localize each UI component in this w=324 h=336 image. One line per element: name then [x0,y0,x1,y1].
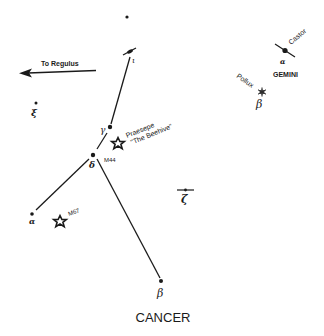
star-zeta: ζ [177,189,194,206]
open-star-icon [112,138,125,149]
star-beta-label: β [156,287,163,300]
constellation-title: CANCER [136,310,191,325]
cluster-m67: M67 [54,207,81,227]
cluster-m44: M44 Praesepe "The Beehive" [104,115,174,163]
star-beta: β [156,279,163,300]
castor-symbol: α [280,57,286,66]
star-iota-label: ι [132,56,135,65]
star-delta-label: δ [88,160,95,170]
gemini-label: GEMINI [273,71,298,78]
sun-star-icon [258,88,266,97]
castor-label: Castor [287,27,308,46]
gemini-castor: α Castor [275,27,308,66]
star-alpha-label: α [29,216,35,226]
m67-label: M67 [67,207,81,217]
star-chart: ι γ δ M44 Praesepe "The Beehive" α M67 β [0,0,324,336]
regulus-label: To Regulus [41,60,79,68]
open-star-icon [54,216,67,227]
star-xi-label: ξ [31,107,38,118]
line-delta-beta [97,159,160,278]
line-iota-gamma [111,57,130,124]
star-unlabeled-top [125,15,128,18]
pollux-symbol: β [255,98,262,111]
star-zeta-label: ζ [181,193,188,206]
regulus-pointer: To Regulus [19,60,96,78]
constellation-lines [36,57,160,278]
star-delta: δ [88,153,95,170]
star-iota: ι [123,48,136,65]
gemini-pollux: Pollux β [235,72,266,111]
line-gamma-delta [97,133,107,149]
arrow-shaft [28,71,96,74]
pollux-label: Pollux [235,72,255,89]
star-xi: ξ [31,102,38,119]
line-delta-alpha [36,159,89,210]
star-gamma-label: γ [100,125,106,135]
star-alpha: α [29,212,35,226]
m44-label: M44 [104,157,116,163]
